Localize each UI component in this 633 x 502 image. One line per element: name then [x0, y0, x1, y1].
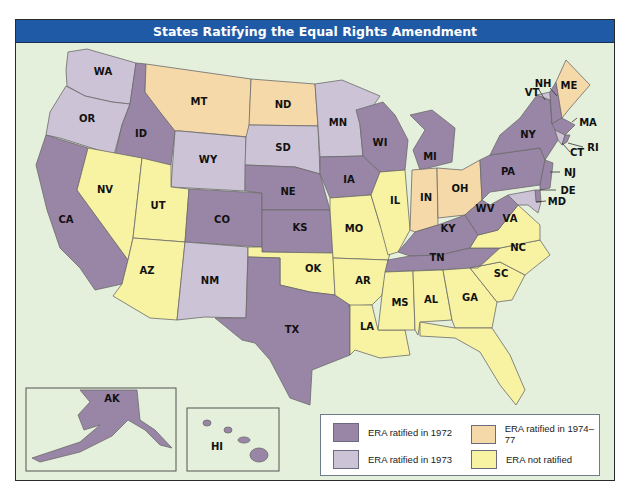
legend-swatch: [471, 425, 496, 444]
svg-text:AL: AL: [424, 294, 439, 305]
svg-text:MD: MD: [548, 196, 566, 207]
svg-text:IL: IL: [390, 195, 401, 206]
svg-text:ME: ME: [561, 80, 578, 91]
svg-text:NV: NV: [97, 184, 113, 195]
svg-text:PA: PA: [501, 166, 515, 177]
svg-text:HI: HI: [211, 441, 223, 452]
svg-text:AZ: AZ: [140, 265, 155, 276]
svg-text:NY: NY: [520, 129, 536, 140]
svg-text:ND: ND: [275, 99, 292, 110]
svg-text:KY: KY: [441, 223, 457, 234]
legend-item-1974-77: ERA ratified in 1974–77: [471, 423, 599, 445]
svg-text:ID: ID: [135, 128, 147, 139]
svg-text:NE: NE: [280, 186, 295, 197]
legend-item-1973: ERA ratified in 1973: [333, 450, 452, 469]
svg-text:MS: MS: [391, 297, 408, 308]
legend-label: ERA ratified in 1972: [368, 427, 452, 438]
svg-text:MN: MN: [329, 117, 347, 128]
svg-text:OR: OR: [79, 113, 96, 124]
legend-item-not-ratified: ERA not ratified: [471, 450, 572, 469]
svg-text:IN: IN: [420, 192, 432, 203]
legend-label: ERA not ratified: [506, 454, 572, 465]
svg-text:LA: LA: [360, 321, 374, 332]
legend-label: ERA ratified in 1973: [368, 454, 452, 465]
map-legend: ERA ratified in 1972 ERA ratified in 197…: [320, 414, 600, 476]
hawaii-island-oahu: [224, 427, 232, 433]
svg-text:MI: MI: [423, 151, 437, 162]
legend-swatch: [333, 450, 359, 469]
hawaii-island-maui: [238, 437, 250, 443]
svg-text:CT: CT: [570, 147, 584, 158]
svg-text:NJ: NJ: [564, 167, 576, 178]
svg-text:WV: WV: [476, 203, 495, 214]
svg-text:AR: AR: [355, 275, 371, 286]
svg-text:OK: OK: [305, 263, 323, 274]
svg-text:GA: GA: [462, 292, 478, 303]
hawaii-island-kauai: [203, 420, 211, 426]
legend-swatch: [471, 450, 497, 469]
svg-text:OH: OH: [452, 183, 469, 194]
svg-text:IA: IA: [343, 174, 355, 185]
svg-text:NH: NH: [535, 78, 552, 89]
svg-text:MO: MO: [345, 223, 363, 234]
hawaii-inset: [187, 408, 279, 471]
svg-text:UT: UT: [151, 200, 166, 211]
svg-text:VA: VA: [503, 213, 518, 224]
svg-text:TN: TN: [429, 252, 444, 263]
legend-swatch: [333, 423, 359, 442]
svg-text:SD: SD: [275, 142, 291, 153]
svg-text:WY: WY: [199, 154, 218, 165]
svg-text:MA: MA: [579, 117, 597, 128]
state-fl[interactable]: [420, 322, 525, 405]
state-ak[interactable]: [32, 390, 172, 462]
svg-text:NM: NM: [201, 275, 219, 286]
svg-text:TX: TX: [285, 324, 300, 335]
svg-text:SC: SC: [494, 268, 509, 279]
svg-text:CA: CA: [58, 214, 73, 225]
svg-text:DE: DE: [560, 185, 575, 196]
svg-text:NC: NC: [510, 242, 526, 253]
state-hi[interactable]: [250, 448, 268, 462]
svg-text:WI: WI: [373, 137, 388, 148]
svg-text:MT: MT: [191, 96, 208, 107]
legend-label: ERA ratified in 1974–77: [505, 423, 599, 445]
svg-text:CO: CO: [214, 214, 230, 225]
legend-item-1972: ERA ratified in 1972: [333, 423, 452, 442]
svg-text:KS: KS: [293, 222, 308, 233]
state-ny[interactable]: [490, 95, 558, 160]
svg-text:AK: AK: [104, 393, 121, 404]
svg-text:RI: RI: [587, 142, 598, 153]
svg-text:WA: WA: [94, 66, 113, 77]
